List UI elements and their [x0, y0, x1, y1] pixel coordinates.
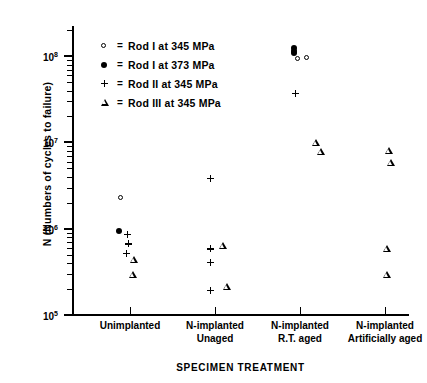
x-axis-category-label: N-implantedArtificially aged [325, 320, 427, 345]
y-axis-minor-tick [67, 168, 73, 169]
legend-symbol [96, 57, 112, 73]
marker-plus-icon [207, 287, 214, 294]
legend-symbol [96, 76, 112, 92]
y-axis-minor-tick [67, 237, 73, 238]
legend-symbol [96, 38, 112, 54]
marker-plus-icon [207, 245, 214, 252]
y-axis-minor-tick [67, 162, 73, 163]
chart-legend: =Rod I at 345 MPa=Rod I at 373 MPa=Rod I… [96, 36, 221, 112]
marker-plus-icon [124, 231, 131, 238]
marker-open-circle-icon [295, 56, 300, 61]
marker-triangle-icon [383, 245, 391, 252]
x-axis-title: SPECIMEN TREATMENT [72, 362, 409, 373]
marker-triangle-icon [101, 99, 109, 106]
y-axis-minor-tick [67, 91, 73, 92]
y-axis-minor-tick [67, 116, 73, 117]
y-axis-tick-label: 108 [24, 50, 58, 63]
fatigue-scatter-chart: N (Numbers of cycles to failure) 1081071… [0, 0, 427, 383]
y-axis-tick-label: 106 [24, 223, 58, 236]
y-axis-minor-tick [67, 146, 73, 147]
y-axis-minor-tick [67, 177, 73, 178]
marker-triangle-icon [219, 242, 227, 249]
y-axis-major-tick [64, 141, 73, 143]
y-axis-title: N (Numbers of cycles to failure) [41, 39, 53, 289]
y-axis-major-tick [64, 55, 73, 57]
y-axis-minor-tick [67, 233, 73, 234]
legend-item: =Rod I at 345 MPa [96, 36, 221, 55]
y-axis-minor-tick [67, 203, 73, 204]
y-axis-minor-tick [67, 156, 73, 157]
y-axis-minor-tick [67, 242, 73, 243]
legend-equals-sign: = [112, 40, 128, 51]
y-axis-minor-tick [67, 101, 73, 102]
y-axis-minor-tick [67, 82, 73, 83]
legend-item: =Rod I at 373 MPa [96, 55, 221, 74]
legend-label: Rod I at 345 MPa [128, 40, 215, 52]
x-axis-tick [300, 307, 301, 314]
legend-equals-sign: = [112, 59, 128, 70]
legend-symbol [96, 95, 112, 111]
marker-plus-icon [207, 175, 214, 182]
y-axis-minor-tick [67, 248, 73, 249]
marker-plus-icon [125, 240, 132, 247]
x-axis-tick [385, 307, 386, 314]
marker-filled-circle-icon [116, 228, 122, 234]
marker-triangle-icon [223, 283, 231, 290]
marker-triangle-icon [312, 139, 320, 146]
marker-open-circle-icon [304, 55, 309, 60]
marker-triangle-icon [129, 271, 137, 278]
marker-triangle-icon [383, 271, 391, 278]
legend-item: =Rod II at 345 MPa [96, 74, 221, 93]
x-axis-tick [130, 307, 131, 314]
legend-item: =Rod III at 345 MPa [96, 93, 221, 112]
marker-triangle-icon [317, 148, 325, 155]
y-axis-minor-tick [67, 60, 73, 61]
marker-plus-icon [101, 80, 108, 87]
marker-triangle-icon [387, 159, 395, 166]
x-axis-tick [215, 307, 216, 314]
y-axis-minor-tick [67, 188, 73, 189]
marker-triangle-icon [130, 256, 138, 263]
legend-equals-sign: = [112, 78, 128, 89]
y-axis-minor-tick [67, 255, 73, 256]
marker-plus-icon [123, 250, 130, 257]
y-axis-minor-tick [67, 263, 73, 264]
y-axis-minor-tick [67, 30, 73, 31]
y-axis-tick-label: 107 [24, 136, 58, 149]
y-axis-minor-tick [67, 65, 73, 66]
marker-triangle-icon [385, 147, 393, 154]
y-axis-minor-tick [67, 75, 73, 76]
legend-label: Rod III at 345 MPa [128, 97, 221, 109]
y-axis-minor-tick [67, 274, 73, 275]
x-axis-line [72, 314, 409, 316]
y-axis-minor-tick [67, 289, 73, 290]
y-axis-minor-tick [67, 70, 73, 71]
marker-plus-icon [207, 259, 214, 266]
y-axis-major-tick [64, 314, 73, 316]
y-axis-minor-tick [67, 151, 73, 152]
y-axis-tick-label: 105 [24, 309, 58, 322]
marker-open-circle-icon [118, 195, 123, 200]
marker-plus-icon [292, 90, 299, 97]
y-axis-major-tick [64, 228, 73, 230]
marker-open-circle-icon [101, 43, 106, 48]
legend-label: Rod I at 373 MPa [128, 59, 215, 71]
marker-filled-circle-icon [101, 62, 107, 68]
legend-label: Rod II at 345 MPa [128, 78, 218, 90]
legend-equals-sign: = [112, 97, 128, 108]
